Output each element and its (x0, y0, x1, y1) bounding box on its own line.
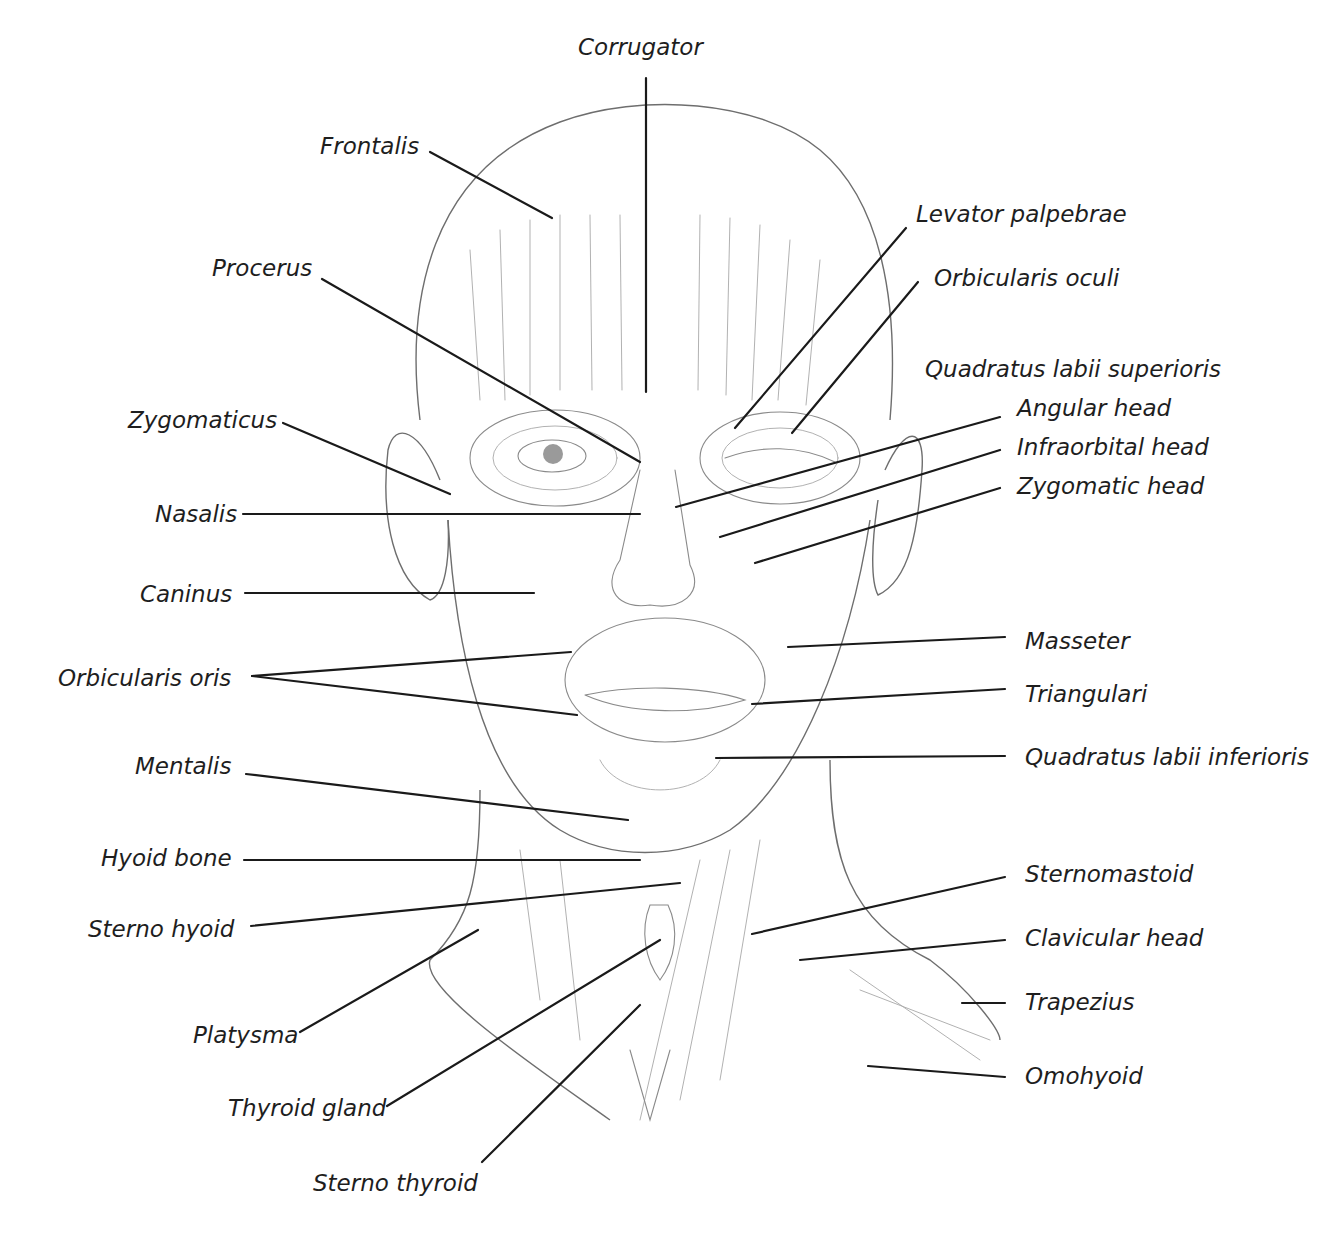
leader-line-sternomastoid (752, 877, 1005, 934)
label-triangulari: Triangulari (1025, 681, 1148, 707)
label-caninus: Caninus (140, 581, 232, 607)
label-levator-palpebrae: Levator palpebrae (916, 201, 1127, 227)
label-zygomaticus: Zygomaticus (127, 407, 277, 433)
label-orbicularis-oculi: Orbicularis oculi (934, 265, 1120, 291)
leader-line-thyroid-gland (387, 940, 660, 1106)
trachea (630, 1050, 670, 1120)
labels: FrontalisProcerusZygomaticusNasalisCanin… (58, 34, 1309, 1196)
leader-line-zygomaticus (283, 423, 450, 494)
leader-line-orbicularis-oris-1 (252, 652, 571, 676)
leader-line-sterno-thyroid (482, 1005, 640, 1162)
label-procerus: Procerus (212, 255, 312, 281)
leader-line-platysma (300, 930, 478, 1032)
label-nasalis: Nasalis (155, 501, 237, 527)
right-orbicularis-oculi (700, 412, 860, 504)
label-zygomatic-head: Zygomatic head (1016, 473, 1205, 499)
label-quadratus-labii-inferioris: Quadratus labii inferioris (1025, 744, 1309, 770)
label-masseter: Masseter (1025, 628, 1131, 654)
head-neck-sketch: FrontalisProcerusZygomaticusNasalisCanin… (0, 0, 1334, 1242)
neck-right (830, 760, 1000, 1040)
leader-line-sterno-hyoid (251, 883, 680, 926)
leader-line-quadratus-labii-inferioris (716, 756, 1005, 758)
leader-line-zygomatic-head (755, 488, 1000, 563)
leader-line-orbicularis-oris-2 (252, 676, 577, 715)
label-trapezius: Trapezius (1025, 989, 1135, 1015)
right-ear (873, 436, 923, 595)
leader-line-angular-head (676, 417, 1000, 507)
label-omohyoid: Omohyoid (1025, 1063, 1143, 1089)
label-infraorbital-head: Infraorbital head (1017, 434, 1209, 460)
label-corrugator: Corrugator (578, 34, 704, 60)
face-outline (448, 520, 870, 853)
right-eye-closed (725, 449, 835, 462)
leader-line-triangulari (752, 689, 1005, 704)
label-clavicular-head: Clavicular head (1025, 925, 1204, 951)
label-sterno-hyoid: Sterno hyoid (88, 916, 235, 942)
thyroid-cartilage (645, 905, 675, 980)
nose (612, 470, 695, 606)
skull-outline (416, 104, 892, 420)
leader-lines (243, 78, 1005, 1162)
label-sternomastoid: Sternomastoid (1025, 861, 1194, 887)
left-ear (386, 433, 449, 600)
leader-line-masseter (788, 637, 1005, 647)
label-sterno-thyroid: Sterno thyroid (313, 1170, 478, 1196)
label-mentalis: Mentalis (135, 753, 231, 779)
chin (600, 760, 720, 790)
label-orbicularis-oris: Orbicularis oris (58, 665, 231, 691)
label-frontalis: Frontalis (320, 133, 419, 159)
left-pupil (543, 444, 563, 464)
label-quadratus-labii-superioris: Quadratus labii superioris (925, 356, 1221, 382)
anatomy-diagram: FrontalisProcerusZygomaticusNasalisCanin… (0, 0, 1334, 1242)
neck-left (429, 790, 610, 1120)
label-thyroid-gland: Thyroid gland (228, 1095, 387, 1121)
leader-line-omohyoid (868, 1066, 1005, 1077)
label-hyoid-bone: Hyoid bone (101, 845, 232, 871)
label-platysma: Platysma (193, 1022, 298, 1048)
neck-strokes (520, 840, 990, 1120)
lips (585, 688, 745, 711)
leader-line-mentalis (246, 774, 628, 820)
orbicularis-oris-shape (565, 618, 765, 742)
label-angular-head: Angular head (1015, 395, 1172, 421)
